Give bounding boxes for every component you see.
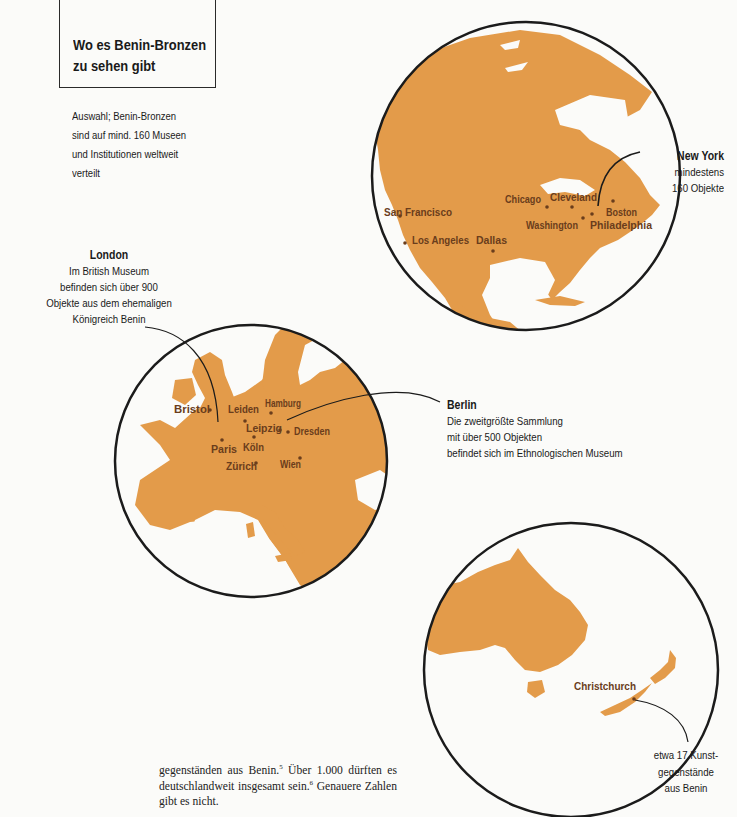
callout-line: befinden sich über 900 [17, 279, 200, 295]
city-dot [269, 411, 273, 415]
city-dot [252, 435, 256, 439]
city-label: Hamburg [265, 397, 301, 409]
callout-line: etwa 17 Kunst- [649, 747, 723, 764]
callout-line: gegenstände [649, 764, 723, 781]
city-label: Paris [211, 443, 237, 455]
callout-christchurch: etwa 17 Kunst- gegenstände aus Benin [642, 747, 730, 797]
city-label: Dallas [476, 234, 507, 246]
callout-line: 160 Objekte [650, 180, 724, 196]
city-dot [590, 212, 594, 216]
city-dot [632, 697, 636, 701]
city-markers-oceania: Christchurch [574, 680, 636, 701]
city-dot [220, 438, 224, 442]
callout-heading: Berlin [447, 397, 623, 413]
city-label: Chicago [505, 193, 541, 205]
callout-heading: New York [650, 148, 724, 164]
tasmania [527, 680, 545, 698]
callout-line: befindet sich im Ethnologischen Museum [447, 445, 623, 461]
city-label: Zürich [226, 460, 257, 472]
city-label: Cleveland [550, 191, 597, 203]
australia-landmass [425, 548, 588, 672]
body-text-paragraph: gegenständen aus Benin.5 Über 1.000 dürf… [159, 763, 397, 810]
cuba [535, 296, 585, 306]
city-label: Philadelphia [590, 219, 653, 231]
callout-heading: London [17, 247, 200, 263]
callout-line: Königreich Benin [17, 311, 200, 327]
city-label: Washington [526, 219, 578, 231]
city-dot [611, 199, 615, 203]
gulf-of-mexico [490, 258, 555, 298]
map-north-america [372, 22, 680, 334]
leader-line-christchurch [635, 700, 688, 742]
city-label: Wien [280, 458, 301, 470]
city-label: Dresden [294, 425, 330, 437]
callout-line: aus Benin [649, 780, 723, 797]
city-dot [581, 216, 585, 220]
city-dot [403, 241, 407, 245]
callout-line: Im British Museum [17, 263, 200, 279]
callout-london: London Im British Museum befinden sich ü… [0, 247, 218, 327]
city-label: Leipzig [246, 422, 282, 434]
callout-line: Objekte aus dem ehemaligen [17, 295, 200, 311]
ireland [172, 378, 196, 405]
city-dot [286, 430, 290, 434]
city-dot [545, 205, 549, 209]
city-dot [491, 249, 495, 253]
city-dot [570, 205, 574, 209]
city-label: Leiden [228, 403, 259, 415]
body-text-segment: gegenständen aus Benin. [159, 764, 279, 777]
city-label: Köln [243, 441, 264, 453]
callout-line: mit über 500 Objekten [447, 429, 623, 445]
city-label: Los Angeles [412, 234, 469, 246]
callout-line: mindestens [650, 164, 724, 180]
callout-berlin: Berlin Die zweitgrößte Sammlung mit über… [447, 397, 656, 461]
city-label: Boston [606, 206, 637, 218]
callout-new-york: New York mindestens 160 Objekte [636, 148, 724, 196]
new-zealand-north-island [650, 650, 676, 684]
callout-line: Die zweitgrößte Sammlung [447, 413, 623, 429]
city-label: San Francisco [384, 206, 452, 218]
city-label: Bristol [174, 403, 210, 415]
city-label: Christchurch [574, 680, 636, 692]
